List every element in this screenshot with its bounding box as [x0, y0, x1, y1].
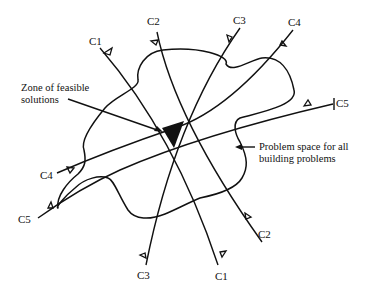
problem-space-label-line1: Problem space for all: [259, 141, 349, 153]
label-c4-top: C4: [288, 17, 301, 28]
label-c1-top: C1: [89, 36, 102, 47]
label-c5-right: C5: [336, 98, 349, 109]
constraint-line-c1: [100, 48, 218, 265]
label-c5-left: C5: [18, 214, 31, 225]
flag-icon-c2-bottom: [245, 213, 251, 219]
feasible-zone-arrowhead: [154, 126, 163, 132]
flag-icon-c5-right: [304, 100, 311, 106]
label-c2-bottom: C2: [258, 229, 271, 240]
constraint-line-c4: [57, 30, 293, 173]
flag-icon-c2-top: [151, 40, 158, 45]
flag-icon-c5-left: [48, 202, 53, 208]
problem-space-label: Problem space for all building problems: [259, 141, 349, 165]
label-c1-bottom: C1: [215, 271, 228, 282]
problem-space-label-line2: building problems: [259, 153, 349, 165]
label-c2-top: C2: [147, 16, 160, 27]
label-c3-top: C3: [233, 15, 246, 26]
flag-icon-c4-left: [67, 167, 74, 173]
flag-icon-c4-top: [280, 41, 286, 46]
feasible-zone-label-line1: Zone of feasible: [21, 82, 89, 94]
label-c4-left: C4: [40, 170, 53, 181]
label-c3-bottom: C3: [137, 270, 150, 281]
feasible-zone-label-line2: solutions: [21, 94, 89, 106]
flag-icon-c1-bottom: [220, 251, 226, 257]
flag-icon-c1-top: [104, 48, 112, 55]
problem-space-arrowhead: [235, 144, 242, 150]
flag-icon-c3-bottom: [140, 253, 146, 258]
feasible-zone-label: Zone of feasible solutions: [21, 82, 89, 106]
